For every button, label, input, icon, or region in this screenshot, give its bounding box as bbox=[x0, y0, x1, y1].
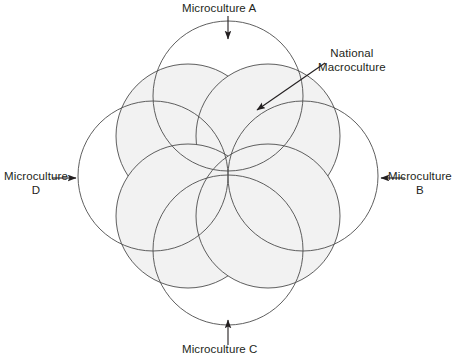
diagram-canvas: Microculture A Microculture B Microcultu… bbox=[0, 0, 455, 363]
lobe-bottom-right bbox=[196, 144, 340, 288]
label-microculture-a: Microculture A bbox=[182, 2, 256, 16]
label-microculture-b: Microculture B bbox=[388, 170, 452, 197]
label-microculture-c: Microculture C bbox=[182, 343, 258, 357]
label-microculture-d: Microculture D bbox=[2, 170, 70, 197]
label-national-macroculture: National Macroculture bbox=[318, 47, 386, 74]
